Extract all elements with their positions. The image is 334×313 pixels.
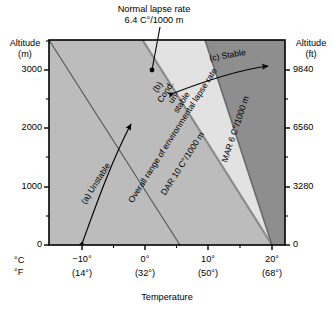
right-axis-unit: (ft) [288, 49, 334, 60]
unit-celsius-label: °C [14, 255, 24, 266]
unit-fahrenheit-label: °F [14, 267, 23, 278]
right-tick-label-9840: 9840 [293, 64, 333, 75]
left-tick-label-3000: 3000 [2, 64, 42, 75]
left-tick-label-0: 0 [2, 239, 42, 250]
left-tick-label-1000: 1000 [2, 181, 42, 192]
chart-title-line1: Normal lapse rate [84, 4, 224, 15]
right-tick-label-6560: 6560 [293, 122, 333, 133]
right-tick-label-0: 0 [293, 239, 333, 250]
right-axis-title: Altitude [288, 38, 334, 49]
x-tick-label-f-68: (68°) [242, 268, 302, 279]
x-tick-label-f-50: (50°) [178, 268, 238, 279]
x-tick-label-c-20: 20° [242, 254, 302, 265]
x-tick-label-c--10: −10° [52, 254, 112, 265]
left-axis-unit: (m) [2, 49, 48, 60]
x-axis-label: Temperature [107, 292, 227, 303]
x-tick-label-c-10: 10° [178, 254, 238, 265]
x-tick-label-c-0: 0° [115, 254, 175, 265]
right-tick-label-3280: 3280 [293, 181, 333, 192]
plot-area: (a) Unstable Overall range of environmen… [49, 40, 285, 245]
left-axis-title: Altitude [2, 38, 48, 49]
chart-title-line2: 6.4 C°/1000 m [84, 15, 224, 26]
lapse-rate-diagram: (a) Unstable Overall range of environmen… [0, 0, 334, 313]
left-tick-label-2000: 2000 [2, 122, 42, 133]
x-tick-label-f-32: (32°) [115, 268, 175, 279]
x-tick-label-f-14: (14°) [52, 268, 112, 279]
